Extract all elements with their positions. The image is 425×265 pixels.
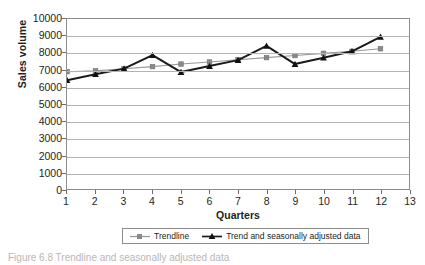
legend-label-adjusted: Trend and seasonally adjusted data [226,232,360,241]
gridline [67,174,409,175]
data-point-marker [263,43,270,49]
gridline [67,122,409,123]
x-axis-title: Quarters [66,209,410,221]
y-axis-tick-label: 2000 [16,150,62,161]
series-line [67,49,380,72]
x-axis-tick-label: 3 [110,195,136,207]
x-axis-tick-mark [123,190,124,194]
x-axis-tick-label: 9 [282,195,308,207]
x-axis-tick-mark [381,190,382,194]
x-axis-tick-label: 2 [82,195,108,207]
y-axis-tick-label: 9000 [16,30,62,41]
gridline [67,88,409,89]
series-adjusted [67,33,384,83]
y-axis-tick-labels: 0100020003000400050006000700080009000100… [16,18,62,190]
y-axis-tick-label: 5000 [16,99,62,110]
plot-area [66,18,410,190]
chart-legend: Trendline Trend and seasonally adjusted … [122,228,369,244]
x-axis-tick-label: 5 [168,195,194,207]
gridline [67,139,409,140]
x-axis-tick-labels: 12345678910111213 [66,195,410,209]
y-axis-tick-label: 10000 [16,13,62,24]
x-axis-tick-mark [95,190,96,194]
gridline [67,36,409,37]
y-axis-tick-label: 3000 [16,133,62,144]
gridline [67,53,409,54]
legend-marker-triangle-icon [202,232,222,241]
legend-label-trendline: Trendline [154,232,189,241]
x-axis-tick-mark [209,190,210,194]
y-axis-tick-label: 4000 [16,116,62,127]
gridline [67,71,409,72]
series-line [67,37,380,80]
x-axis-tick-mark [267,190,268,194]
legend-entry-trendline: Trendline [130,232,189,241]
legend-marker-square-icon [130,232,150,241]
x-axis-tick-mark [295,190,296,194]
figure-container: Sales volume 010002000300040005000600070… [0,0,425,265]
x-axis-tick-label: 10 [311,195,337,207]
x-axis-tick-label: 1 [53,195,79,207]
x-axis-tick-mark [324,190,325,194]
x-axis-tick-mark [66,190,67,194]
x-axis-tick-label: 6 [196,195,222,207]
x-axis-tick-mark [181,190,182,194]
y-axis-tick-label: 0 [16,185,62,196]
plot-series-svg [67,19,409,189]
x-axis-tick-label: 12 [368,195,394,207]
data-point-marker [264,55,269,60]
figure-caption: Figure 6.8 Trendline and seasonally adju… [8,252,408,264]
data-point-marker [179,62,184,67]
x-axis-tick-label: 13 [397,195,423,207]
gridline [67,105,409,106]
y-axis-tick-label: 8000 [16,47,62,58]
x-axis-tick-mark [238,190,239,194]
x-axis-tick-label: 7 [225,195,251,207]
y-axis-tick-label: 6000 [16,82,62,93]
x-axis-tick-mark [353,190,354,194]
y-axis-tick-label: 7000 [16,64,62,75]
x-axis-tick-label: 11 [340,195,366,207]
data-point-marker [378,46,383,51]
y-axis-tick-label: 1000 [16,168,62,179]
gridline [67,157,409,158]
x-axis-tick-mark [152,190,153,194]
legend-entry-adjusted: Trend and seasonally adjusted data [202,232,360,241]
x-axis-tick-mark [410,190,411,194]
x-axis-tick-label: 8 [254,195,280,207]
data-point-marker [150,64,155,69]
x-axis-tick-label: 4 [139,195,165,207]
